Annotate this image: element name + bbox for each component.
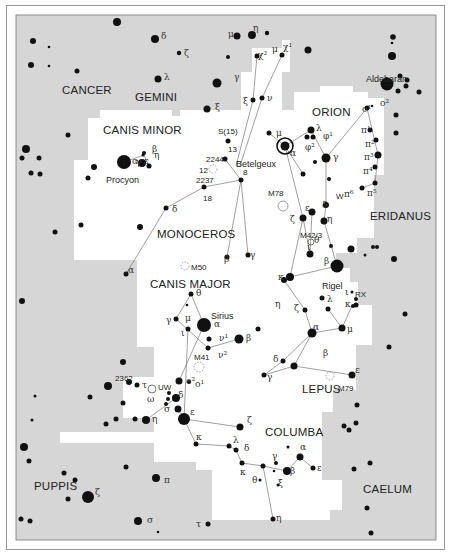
star <box>339 325 346 332</box>
star <box>206 522 211 527</box>
star <box>226 139 231 144</box>
constellation-label: PUPPIS <box>34 480 78 492</box>
star <box>320 296 325 301</box>
greek-letter-label: ε <box>355 365 360 375</box>
star <box>271 517 276 522</box>
star <box>91 164 97 170</box>
greek-letter-label: α <box>313 322 319 332</box>
star <box>390 34 396 40</box>
greek-letter-label: θ <box>314 235 319 245</box>
greek-letter-label: ζ <box>95 487 100 497</box>
star <box>351 304 355 308</box>
deep-sky-label: 2244 <box>206 155 224 164</box>
star <box>259 479 262 482</box>
star <box>396 89 401 94</box>
star <box>388 52 396 60</box>
star <box>177 51 181 55</box>
star <box>281 142 290 151</box>
deep-sky-label: W <box>336 192 344 201</box>
star <box>79 223 84 228</box>
greek-letter-label: ο² <box>186 376 195 386</box>
greek-letter-label: φ¹ <box>323 131 333 141</box>
star <box>124 465 129 470</box>
deep-sky-label: M41 <box>194 353 210 362</box>
star <box>391 256 397 262</box>
star <box>352 467 357 472</box>
star <box>120 359 126 365</box>
star <box>197 318 211 332</box>
star <box>207 337 212 342</box>
deep-sky-label: M50 <box>191 263 207 272</box>
greek-letter-label: ο² <box>380 98 389 108</box>
star <box>256 327 261 332</box>
star <box>322 154 331 163</box>
greek-letter-label: ω <box>147 394 154 404</box>
greek-letter-label: π³ <box>364 152 374 162</box>
greek-letter-label: β <box>290 466 295 476</box>
greek-letter-label: η <box>275 299 280 309</box>
greek-letter-label: ε <box>317 463 322 473</box>
greek-letter-label: ν² <box>218 350 227 360</box>
star <box>305 47 312 54</box>
star <box>260 96 265 101</box>
greek-letter-label: ξ <box>278 478 283 488</box>
star <box>75 69 80 74</box>
greek-letter-label: η <box>276 513 281 523</box>
greek-letter-label: α <box>214 319 220 329</box>
star <box>329 244 333 248</box>
star <box>137 224 143 230</box>
star <box>226 55 230 59</box>
greek-letter-label: λ <box>316 123 322 133</box>
star <box>261 464 266 469</box>
greek-letter-label: θ <box>196 288 201 298</box>
greek-letter-label: γ <box>272 451 277 461</box>
star <box>369 531 374 536</box>
star <box>368 461 373 466</box>
star <box>204 106 211 113</box>
star <box>403 312 408 317</box>
star <box>286 273 294 281</box>
greek-letter-label: δ <box>273 354 278 364</box>
star <box>237 424 244 431</box>
star <box>206 346 211 351</box>
star <box>20 443 28 451</box>
star <box>104 422 109 427</box>
star <box>240 461 245 466</box>
deep-sky-label: 12 <box>199 166 208 175</box>
greek-letter-label: μ <box>276 128 282 138</box>
greek-letter-label: ζ <box>294 303 299 313</box>
star <box>133 417 138 422</box>
greek-letter-label: π <box>164 475 170 485</box>
constellation-label: MONOCEROS <box>157 228 236 240</box>
star <box>48 65 51 68</box>
constellation-label: ORION <box>312 106 351 118</box>
star <box>235 335 244 344</box>
star <box>267 131 272 136</box>
star <box>174 317 179 322</box>
greek-letter-label: α <box>128 265 134 275</box>
constellation-label: ERIDANUS <box>370 210 431 222</box>
star <box>371 105 374 108</box>
star <box>66 497 71 502</box>
star <box>175 406 182 413</box>
greek-letter-label: π² <box>365 139 375 149</box>
greek-letter-label: τ <box>196 519 201 529</box>
greek-letter-label: β <box>323 348 328 358</box>
star <box>303 308 308 313</box>
greek-letter-label: δ <box>322 200 327 210</box>
deep-sky-label: 2237 <box>196 176 214 185</box>
star-name-label: Rigel <box>322 281 343 291</box>
star <box>327 177 331 181</box>
greek-letter-label: δ <box>244 443 249 453</box>
greek-letter-label: γ <box>267 372 272 382</box>
star <box>301 172 306 177</box>
star <box>31 419 34 422</box>
constellation-label: CANCER <box>62 84 112 96</box>
greek-letter-label: π⁶ <box>344 189 354 199</box>
star <box>355 403 360 408</box>
star <box>375 152 382 159</box>
star <box>152 474 160 482</box>
star <box>326 307 331 312</box>
greek-letter-label: ε <box>144 156 149 166</box>
star <box>273 470 276 473</box>
